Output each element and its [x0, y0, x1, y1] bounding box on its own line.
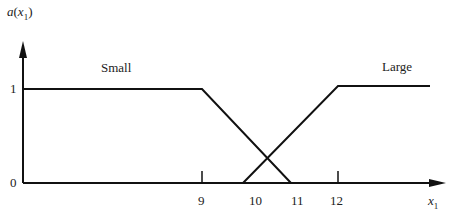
y-axis-label: a(x1) — [7, 4, 32, 22]
small-set-label: Small — [101, 60, 131, 76]
small-membership-curve — [23, 89, 291, 183]
y-tick-0: 0 — [10, 175, 17, 191]
x-axis-arrow-icon — [429, 179, 446, 187]
large-membership-curve — [243, 86, 430, 183]
large-set-label: Large — [382, 59, 412, 75]
y-tick-1: 1 — [10, 81, 17, 97]
y-axis-arrow-icon — [19, 41, 27, 58]
x-tick-10: 10 — [249, 193, 262, 209]
membership-diagram — [0, 0, 454, 215]
x-tick-12: 12 — [330, 193, 343, 209]
x-tick-9: 9 — [198, 193, 205, 209]
x-axis-label: x1 — [428, 193, 438, 211]
x-tick-11: 11 — [291, 193, 304, 209]
